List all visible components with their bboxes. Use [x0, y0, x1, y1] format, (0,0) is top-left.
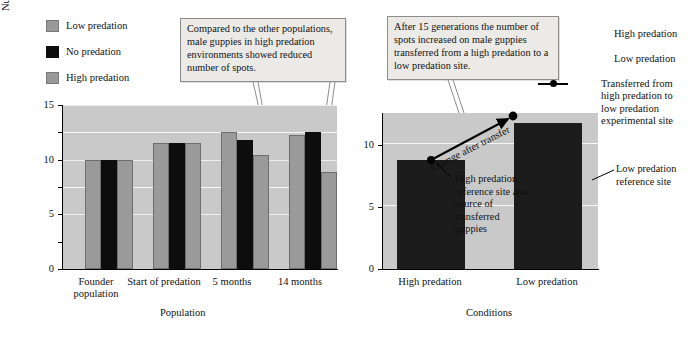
right-x-axis-title: Conditions	[466, 307, 512, 319]
right-tick-10	[378, 145, 382, 146]
right-y-axis-title: Number of spots per male	[0, 0, 11, 11]
right-ytick-label-5: 5	[350, 201, 374, 213]
figure-root: Low predation No predation High predatio…	[0, 0, 691, 337]
right-tick-5	[378, 207, 382, 208]
right-x-axis	[382, 269, 599, 270]
annotation-low-predation-site: Low predation reference site	[616, 163, 691, 188]
right-ytick-label-0: 0	[350, 263, 374, 275]
right-y-axis	[382, 113, 383, 270]
right-ytick-label-10: 10	[350, 139, 374, 151]
right-tick-0	[378, 269, 382, 270]
right-category-low: Low predation	[510, 276, 584, 288]
right-category-high: High predation	[393, 276, 467, 288]
annotation-leaders	[0, 0, 691, 337]
